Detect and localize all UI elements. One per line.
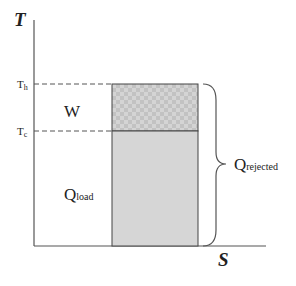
work-label: W xyxy=(64,102,81,121)
tc-label: Tc xyxy=(17,125,28,139)
load-area xyxy=(112,131,198,246)
q-rejected-label: Qrejected xyxy=(234,155,278,174)
rejected-brace xyxy=(203,84,226,246)
q-load-label: Qload xyxy=(64,185,94,204)
y-axis-label: T xyxy=(14,9,27,30)
th-label: Th xyxy=(17,78,28,92)
ts-diagram: T S Th Tc W Qload Qrejected xyxy=(0,0,296,286)
work-area xyxy=(112,84,198,131)
x-axis-label: S xyxy=(218,249,229,270)
